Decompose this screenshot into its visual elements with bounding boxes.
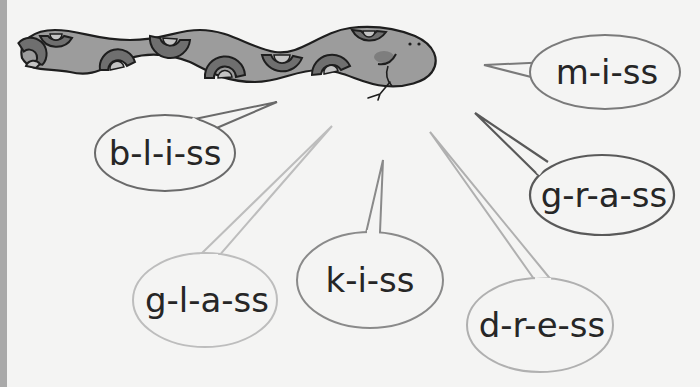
- bubble-word-bliss: b-l-i-ss: [109, 133, 222, 173]
- snake-illustration: b-l-i-ss m-i-ss g-r-a-ss g-l-a-ss k-i-ss…: [0, 0, 700, 387]
- bubble-word-grass: g-r-a-ss: [541, 175, 667, 215]
- speech-bubble-grass: g-r-a-ss: [475, 113, 674, 235]
- bubble-word-dress: d-r-e-ss: [479, 305, 606, 345]
- snake-eye-right: [417, 42, 420, 45]
- bubble-word-glass: g-l-a-ss: [145, 280, 269, 320]
- speech-bubble-bliss: b-l-i-ss: [95, 102, 277, 191]
- bubble-word-kiss: k-i-ss: [325, 260, 414, 300]
- speech-bubble-kiss: k-i-ss: [297, 160, 443, 328]
- snake-eye-left: [408, 42, 411, 45]
- bubble-word-miss: m-i-ss: [556, 52, 659, 92]
- speech-bubble-miss: m-i-ss: [484, 35, 680, 109]
- snake: [14, 27, 436, 100]
